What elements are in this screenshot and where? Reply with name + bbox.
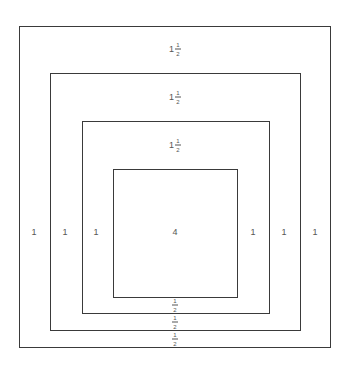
bottom-label-third: 12 <box>172 298 178 313</box>
left-label-second: 1 <box>62 228 67 237</box>
top-label-third: 1 12 <box>169 138 181 153</box>
top-label-outer: 1 12 <box>169 42 181 57</box>
bottom-label-outer: 12 <box>172 332 178 347</box>
right-label-outer: 1 <box>312 228 317 237</box>
right-label-second: 1 <box>281 228 286 237</box>
left-label-third: 1 <box>93 228 98 237</box>
right-label-third: 1 <box>250 228 255 237</box>
bottom-label-second: 12 <box>172 315 178 330</box>
left-label-outer: 1 <box>31 228 36 237</box>
center-label: 4 <box>172 228 177 237</box>
top-label-second: 1 12 <box>169 90 181 105</box>
